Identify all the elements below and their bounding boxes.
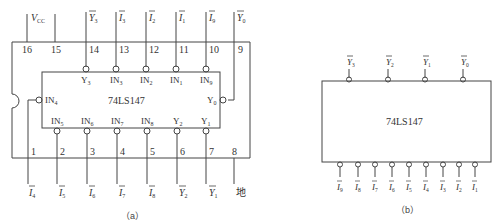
input-label: I2	[455, 182, 462, 193]
inner-label: IN6	[81, 116, 94, 127]
pin-number: 11	[179, 44, 189, 55]
pin-number: 6	[180, 146, 185, 157]
input-label: I9	[336, 182, 343, 193]
chip-label-b: 74LS147	[386, 116, 423, 127]
signal-label: I9	[208, 12, 215, 24]
input-label: I1	[471, 182, 478, 193]
output-label: Y3	[347, 57, 355, 68]
signal-label: Y2	[179, 187, 188, 199]
signal-label: I1	[178, 12, 185, 24]
inner-label: Y3	[81, 75, 91, 86]
pin-number: 7	[209, 146, 214, 157]
signal-label: Y3	[89, 12, 98, 24]
diagram-canvas: 16 15 14 13 12 11 10 9 VCC Y3 I3 I2 I1 I…	[0, 0, 502, 224]
inner-label: IN3	[110, 75, 123, 86]
output-label: Y1	[423, 57, 431, 68]
input-label: I5	[405, 182, 412, 193]
pin-number: 3	[90, 146, 95, 157]
signal-label: I3	[118, 12, 125, 24]
chip-label-a: 74LS147	[108, 95, 145, 106]
signal-label: I8	[148, 187, 155, 199]
caption-a: （a）	[121, 211, 144, 221]
signal-label: Y1	[209, 187, 218, 199]
input-label: I7	[371, 182, 378, 193]
signal-label: I7	[118, 187, 125, 199]
signal-label: I6	[88, 187, 95, 199]
input-label: I4	[422, 182, 429, 193]
pin-number: 9	[238, 44, 243, 55]
output-label: Y2	[386, 57, 394, 68]
inner-label: IN1	[170, 75, 183, 86]
pin-number: 13	[119, 44, 129, 55]
inner-label: Y2	[173, 116, 183, 127]
pin-number: 12	[149, 44, 159, 55]
pin-number: 14	[89, 44, 99, 55]
pin-number: 10	[209, 44, 219, 55]
pin-number: 4	[120, 146, 125, 157]
caption-b: （b）	[396, 205, 419, 215]
input-label: I3	[439, 182, 446, 193]
signal-label: I2	[148, 12, 155, 24]
signal-label-vcc: VCC	[31, 12, 45, 24]
inner-label: IN8	[141, 116, 154, 127]
inner-label-in4: IN4	[45, 95, 58, 106]
ground-label: 地	[236, 186, 246, 198]
output-label: Y0	[461, 57, 469, 68]
inner-label: Y1	[201, 116, 211, 127]
input-label: I8	[354, 182, 361, 193]
inner-label: IN9	[200, 75, 213, 86]
pin-number: 2	[60, 146, 65, 157]
input-label: I6	[388, 182, 395, 193]
pin-number: 15	[51, 44, 61, 55]
inner-label: IN7	[111, 116, 124, 127]
pin-number: 5	[150, 146, 155, 157]
pin-number: 1	[31, 146, 36, 157]
signal-label: I4	[28, 187, 35, 199]
pin-number: 8	[232, 146, 237, 157]
signal-label: Y0	[237, 12, 246, 24]
pin-number: 16	[22, 44, 32, 55]
inner-label: IN2	[140, 75, 153, 86]
inner-label-y0: Y0	[207, 95, 217, 106]
inner-label: IN5	[51, 116, 64, 127]
signal-label: I5	[58, 187, 65, 199]
